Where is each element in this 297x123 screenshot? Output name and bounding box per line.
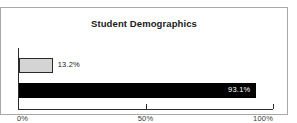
bar-value-label: 13.2% — [58, 60, 80, 69]
bar-series-1[interactable] — [19, 83, 256, 98]
bar-value-label: 93.1% — [228, 85, 250, 94]
x-axis-tick — [273, 104, 274, 109]
x-axis-line — [18, 109, 273, 110]
x-axis-tick-label: 100% — [253, 114, 273, 123]
chart-frame: Student Demographics 13.2% 93.1% 0% 50% … — [0, 7, 288, 115]
chart-title: Student Demographics — [1, 18, 287, 29]
bar-series-0[interactable] — [19, 58, 53, 73]
x-axis-tick-label: 50% — [138, 114, 154, 123]
x-axis-tick — [146, 104, 147, 109]
plot-area: 13.2% 93.1% 0% 50% 100% — [18, 48, 273, 110]
x-axis-tick — [18, 104, 19, 109]
x-axis-tick-label: 0% — [17, 114, 28, 123]
